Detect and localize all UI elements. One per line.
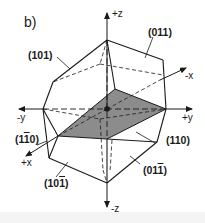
plane-label-110: (110) xyxy=(166,135,190,146)
plane-label-101: (101) xyxy=(28,50,53,61)
plane-label-1-bar1-0: (110) xyxy=(15,134,39,145)
axis-label-minus-z: -z xyxy=(111,204,119,214)
origin-dot xyxy=(104,106,110,112)
plane-label-011: (011) xyxy=(148,27,172,38)
axis-label-plus-y: +y xyxy=(182,113,193,123)
axis-label-plus-z: +z xyxy=(112,9,123,19)
panel-label: b) xyxy=(24,15,36,29)
plane-label-10-bar1: (101) xyxy=(44,178,69,189)
shaded-section-plane xyxy=(58,89,166,139)
axis-label-minus-x: -x xyxy=(185,71,193,81)
axis-label-minus-y: -y xyxy=(17,113,25,123)
crystal-diagram xyxy=(0,0,205,223)
axis-label-plus-x: +x xyxy=(21,158,32,168)
plane-label-01-bar1: (011) xyxy=(143,165,167,176)
